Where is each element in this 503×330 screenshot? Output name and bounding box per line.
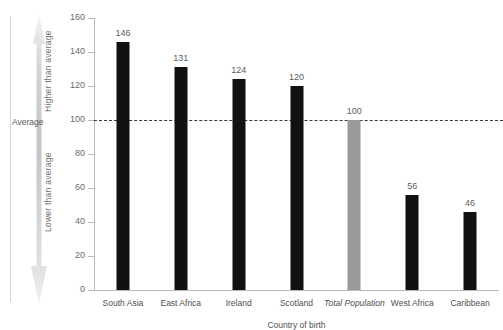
higher-than-average-label: Higher than average [43, 30, 53, 112]
y-tick-label: 120 [70, 80, 85, 90]
bar-value-label: 56 [407, 181, 417, 191]
bar-group[interactable]: 100Total Population [326, 18, 382, 290]
bar-group[interactable]: 120Scotland [269, 18, 325, 290]
lower-than-average-label: Lower than average [43, 152, 53, 232]
bar[interactable] [116, 42, 129, 290]
y-tick-label: 100 [70, 114, 85, 124]
bar-group[interactable]: 131East Africa [153, 18, 209, 290]
x-axis-title: Country of birth [94, 320, 499, 330]
bar-value-label: 146 [115, 28, 130, 38]
average-reference-label: Average [12, 117, 44, 127]
bar-value-label: 46 [465, 198, 475, 208]
x-axis-category-label: Scotland [280, 298, 313, 308]
y-tick-label: 60 [75, 182, 85, 192]
plot-area: 020406080100120140160 146South Asia131Ea… [94, 18, 499, 290]
bar[interactable] [406, 195, 419, 290]
y-tick-label: 140 [70, 46, 85, 56]
bar-value-label: 100 [347, 106, 362, 116]
bar[interactable] [232, 79, 245, 290]
x-axis-category-label: East Africa [160, 298, 201, 308]
y-tick-label: 160 [70, 12, 85, 22]
y-tick-label: 20 [75, 250, 85, 260]
bar[interactable] [464, 212, 477, 290]
bar-value-label: 131 [173, 53, 188, 63]
y-tick-label: 40 [75, 216, 85, 226]
y-tick-label: 80 [75, 148, 85, 158]
x-axis-category-label: Caribbean [450, 298, 489, 308]
bar[interactable] [290, 86, 303, 290]
bar-value-label: 120 [289, 72, 304, 82]
bars-layer: 146South Asia131East Africa124Ireland120… [94, 18, 499, 290]
bar-group[interactable]: 56West Africa [384, 18, 440, 290]
x-axis-category-label: Total Population [324, 298, 385, 308]
bar-group[interactable]: 46Caribbean [442, 18, 498, 290]
bar-value-label: 124 [231, 65, 246, 75]
bar-group[interactable]: 146South Asia [95, 18, 151, 290]
y-tick-mark [88, 290, 94, 291]
bar-group[interactable]: 124Ireland [211, 18, 267, 290]
bar[interactable] [174, 67, 187, 290]
x-axis-category-label: South Asia [103, 298, 144, 308]
x-axis-line [94, 290, 499, 291]
bar-chart-figure: a) Higher than average Lower than averag… [0, 0, 503, 330]
left-border-rule [10, 16, 11, 302]
y-tick-label: 0 [80, 284, 85, 294]
x-axis-category-label: West Africa [391, 298, 434, 308]
bar[interactable] [348, 120, 361, 290]
x-axis-category-label: Ireland [226, 298, 252, 308]
